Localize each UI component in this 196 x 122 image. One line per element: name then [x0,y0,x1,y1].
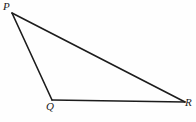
vertex-label-q: Q [46,101,54,112]
edge-QR [52,100,185,102]
edge-PQ [12,13,52,100]
geometry-figure: P Q R [0,0,196,122]
vertex-label-p: P [3,1,10,12]
edge-RP [12,13,185,102]
triangle-drawing [0,0,196,122]
vertex-label-r: R [185,97,192,108]
